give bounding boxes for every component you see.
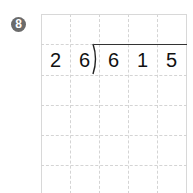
long-division-grid: 2 6 6 1 5 (41, 14, 187, 193)
dividend-digit: 1 (128, 45, 157, 75)
dividend-digit: 6 (99, 45, 128, 75)
grid-line (128, 14, 129, 193)
grid-line (70, 14, 71, 193)
grid-line (186, 14, 187, 193)
divisor-digit: 2 (41, 45, 70, 75)
grid-line (41, 105, 187, 106)
grid-line (41, 135, 187, 136)
grid-line (157, 14, 158, 193)
division-bar (94, 44, 187, 45)
dividend-digit: 5 (157, 45, 186, 75)
division-bracket (90, 43, 98, 75)
grid-line (41, 14, 42, 193)
grid-line (99, 14, 100, 193)
problem-number-badge: 8 (11, 17, 26, 32)
grid-line (41, 75, 187, 76)
grid-line (41, 14, 187, 15)
grid-line (41, 165, 187, 166)
